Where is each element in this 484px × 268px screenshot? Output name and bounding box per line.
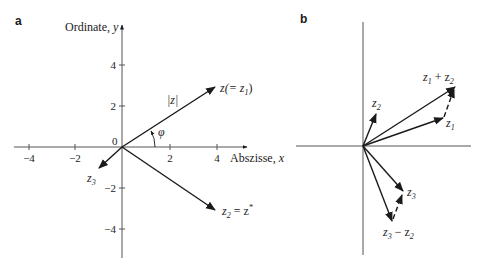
vector-z3-label: z3: [86, 171, 96, 187]
panel-a: a Ordinate, y Abszisse, x −4 −2 2 4 4 2: [14, 14, 285, 258]
panel-b: b z1 z2 z1 + z2 z3 z3 − z2: [296, 12, 471, 255]
vector-z-label: z(= z1): [219, 81, 252, 97]
angle-arc: [151, 131, 155, 147]
y-tick-label: 2: [111, 100, 117, 112]
y-axis-title: Ordinate, y: [65, 20, 119, 34]
x-tick-label: −4: [23, 152, 35, 164]
panel-a-label: a: [15, 14, 22, 28]
x-tick-label: 4: [214, 152, 220, 164]
y-tick-label: 4: [111, 59, 117, 71]
modulus-label: |z|: [167, 93, 178, 107]
x-tick-label: −2: [69, 152, 81, 164]
vector-z3-minus-z2: [363, 146, 392, 221]
vector-z1: [363, 118, 443, 146]
vector-z3-b-label: z3: [406, 185, 416, 201]
x-axis-title: Abszisse, x: [230, 151, 285, 165]
origin-label: 0: [112, 135, 118, 147]
vector-z2-label: z2 = z*: [221, 203, 253, 220]
vector-z1-plus-z2-label: z1 + z2: [422, 70, 454, 86]
x-tick-label: 2: [167, 152, 173, 164]
panel-b-label: b: [300, 12, 307, 26]
vector-z3-minus-z2-label: z3 − z2: [382, 225, 414, 241]
y-tick-label: −2: [104, 182, 116, 194]
figure: a Ordinate, y Abszisse, x −4 −2 2 4 4 2: [0, 0, 484, 268]
vector-z3: [99, 147, 122, 168]
vector-z1-plus-z2: [363, 87, 455, 146]
angle-phi-label: φ: [158, 125, 165, 139]
vector-z3-b: [363, 146, 403, 191]
vector-z1-label: z1: [445, 116, 455, 132]
dashed-z2-difference: [393, 195, 402, 219]
y-tick-label: −4: [104, 223, 116, 235]
vector-z2-b-label: z2: [371, 96, 381, 112]
